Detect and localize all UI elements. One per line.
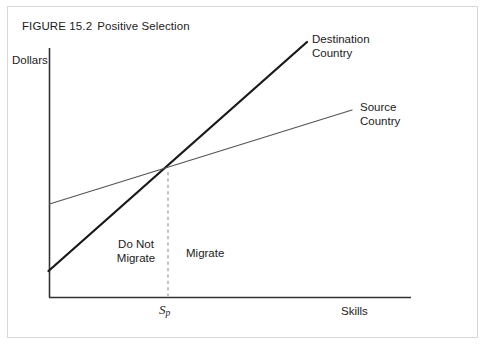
destination-country-label-line2: Country [312,47,370,61]
do-not-migrate-label-line1: Do Not [108,238,164,252]
destination-country-line [49,42,308,271]
source-country-label: Source Country [360,101,400,128]
destination-country-label: Destination Country [312,33,370,60]
migrate-region-label: Migrate [186,247,224,261]
do-not-migrate-region-label: Do Not Migrate [108,238,164,265]
plot-area [0,0,491,350]
do-not-migrate-label-line2: Migrate [108,252,164,266]
x-axis-label: Skills [341,305,368,319]
destination-country-label-line1: Destination [312,33,370,47]
sp-subscript: p [166,308,171,318]
source-country-label-line1: Source [360,101,400,115]
sp-axis-tick-label: Sp [159,303,170,321]
source-country-label-line2: Country [360,115,400,129]
y-axis-label: Dollars [12,54,48,68]
source-country-line [50,110,353,204]
